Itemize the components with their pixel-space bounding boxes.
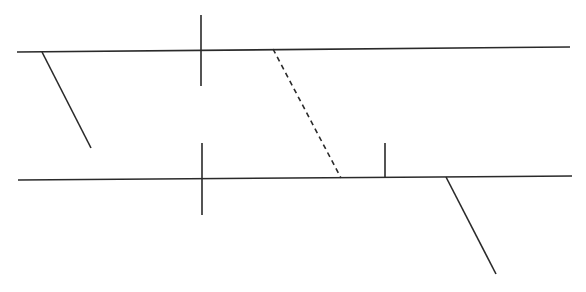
diagram-svg [0, 0, 586, 292]
left-slant-line [42, 52, 91, 148]
top-horizontal-line [17, 47, 570, 52]
bottom-horizontal-line [18, 176, 572, 180]
diagram-canvas [0, 0, 586, 292]
right-slant-line [446, 177, 496, 274]
dashed-connector-line [273, 49, 341, 178]
